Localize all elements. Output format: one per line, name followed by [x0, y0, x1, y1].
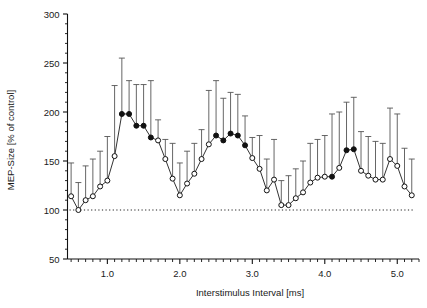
data-point-open	[293, 196, 298, 201]
data-point-open	[337, 165, 342, 170]
data-point-significant	[221, 138, 226, 143]
y-axis-label: MEP-Size [% of control]	[5, 90, 16, 190]
data-point-open	[279, 203, 284, 208]
data-point-open	[264, 188, 269, 193]
y-tick-label: 250	[44, 58, 60, 69]
data-point-open	[156, 138, 161, 143]
data-point-open	[90, 194, 95, 199]
data-point-significant	[141, 123, 146, 128]
data-point-significant	[344, 148, 349, 153]
data-point-open	[373, 177, 378, 182]
mep-size-line-chart: 50100150200250300 1.02.03.04.05.0 Inters…	[0, 0, 427, 308]
data-point-open	[192, 171, 197, 176]
data-point-significant	[243, 143, 248, 148]
x-tick-label: 3.0	[246, 268, 259, 279]
data-point-open	[177, 193, 182, 198]
data-point-significant	[127, 111, 132, 116]
y-tick-label: 200	[44, 107, 60, 118]
data-point-open	[272, 177, 277, 182]
data-point-open	[69, 194, 74, 199]
data-point-open	[359, 168, 364, 173]
x-tick-label: 2.0	[173, 268, 186, 279]
data-point-open	[250, 156, 255, 161]
x-tick-label: 4.0	[318, 268, 331, 279]
data-point-open	[199, 157, 204, 162]
data-point-significant	[228, 131, 233, 136]
data-point-significant	[351, 147, 356, 152]
data-point-open	[322, 174, 327, 179]
data-point-open	[105, 178, 110, 183]
data-point-significant	[134, 123, 139, 128]
data-point-open	[380, 177, 385, 182]
data-point-open	[286, 203, 291, 208]
data-point-significant	[214, 133, 219, 138]
y-tick-label: 50	[49, 254, 60, 265]
data-point-open	[257, 166, 262, 171]
data-point-significant	[148, 135, 153, 140]
data-markers	[69, 111, 415, 212]
data-point-open	[185, 181, 190, 186]
data-point-open	[206, 142, 211, 147]
data-point-significant	[330, 174, 335, 179]
data-point-significant	[235, 133, 240, 138]
error-bars	[68, 58, 415, 210]
y-tick-label: 300	[44, 9, 60, 20]
data-point-open	[388, 157, 393, 162]
data-point-open	[98, 184, 103, 189]
data-point-open	[395, 163, 400, 168]
data-point-open	[308, 180, 313, 185]
data-point-open	[409, 193, 414, 198]
chart-figure: 50100150200250300 1.02.03.04.05.0 Inters…	[0, 0, 427, 308]
data-point-open	[301, 190, 306, 195]
y-tick-label: 150	[44, 156, 60, 167]
x-axis: 1.02.03.04.05.0	[68, 259, 420, 279]
data-point-open	[315, 175, 320, 180]
x-tick-label: 5.0	[391, 268, 404, 279]
data-point-significant	[119, 111, 124, 116]
x-axis-label: Interstimulus Interval [ms]	[196, 287, 304, 298]
x-tick-label: 1.0	[101, 268, 114, 279]
y-axis: 50100150200250300	[44, 9, 68, 265]
data-point-open	[366, 173, 371, 178]
data-point-open	[112, 154, 117, 159]
data-point-open	[83, 198, 88, 203]
y-tick-label: 100	[44, 205, 60, 216]
data-point-open	[402, 184, 407, 189]
data-point-open	[76, 208, 81, 213]
data-point-open	[170, 176, 175, 181]
data-point-open	[163, 157, 168, 162]
